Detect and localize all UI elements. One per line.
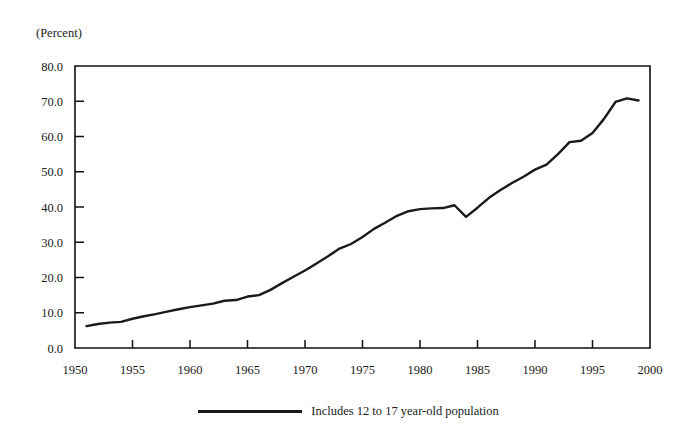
x-axis-tick-marks (133, 340, 593, 348)
y-tick-label: 40.0 (41, 201, 63, 215)
line-chart-plot: 0.010.020.030.040.050.060.070.080.0 1950… (0, 0, 697, 400)
y-tick-label: 60.0 (41, 130, 63, 144)
legend-entry: Includes 12 to 17 year-old population (198, 404, 499, 419)
chart-legend: Includes 12 to 17 year-old population (0, 404, 697, 419)
y-tick-label: 80.0 (41, 60, 63, 74)
y-tick-label: 30.0 (41, 236, 63, 250)
x-tick-label: 1975 (350, 363, 375, 377)
x-tick-label: 1990 (523, 363, 548, 377)
y-tick-label: 70.0 (41, 95, 63, 109)
legend-line-swatch (198, 410, 302, 413)
x-tick-label: 1950 (63, 363, 88, 377)
x-axis-tick-labels: 1950195519601965197019751980198519901995… (63, 363, 663, 377)
y-tick-label: 0.0 (47, 342, 63, 356)
plot-frame (75, 66, 650, 348)
x-tick-label: 1955 (120, 363, 145, 377)
x-tick-label: 1985 (465, 363, 490, 377)
x-tick-label: 1980 (408, 363, 433, 377)
y-tick-label: 20.0 (41, 271, 63, 285)
x-tick-label: 1965 (235, 363, 260, 377)
y-tick-label: 10.0 (41, 306, 63, 320)
x-tick-label: 1995 (580, 363, 605, 377)
legend-label: Includes 12 to 17 year-old population (311, 404, 499, 419)
x-tick-label: 2000 (638, 363, 663, 377)
x-tick-label: 1960 (178, 363, 203, 377)
chart-figure: (Percent) 0.010.020.030.040.050.060.070.… (0, 0, 697, 438)
y-tick-label: 50.0 (41, 165, 63, 179)
y-axis-tick-marks (75, 101, 84, 313)
series-line-population (87, 98, 639, 326)
y-axis-tick-labels: 0.010.020.030.040.050.060.070.080.0 (41, 60, 63, 356)
x-tick-label: 1970 (293, 363, 318, 377)
